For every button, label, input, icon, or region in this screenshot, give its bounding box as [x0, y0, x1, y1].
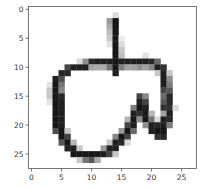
pixel-cell [125, 140, 131, 146]
pixel-cell [119, 128, 125, 134]
pixel-cell [59, 93, 65, 99]
pixel-cell [59, 116, 65, 122]
pixel-cell [125, 64, 131, 70]
pixel-cell [53, 76, 59, 82]
pixel-cell [59, 111, 65, 117]
pixel-cell [113, 145, 119, 151]
pixel-cell [143, 111, 149, 117]
pixel-cell [167, 76, 173, 82]
pixel-cell [119, 47, 125, 53]
pixel-grid [47, 12, 179, 163]
pixel-cell [101, 59, 107, 65]
pixel-cell [71, 151, 77, 157]
pixel-cell [137, 59, 143, 65]
x-tick-label: 20 [147, 173, 157, 182]
pixel-cell [113, 151, 119, 157]
pixel-cell [89, 157, 95, 163]
pixel-cell [155, 134, 161, 140]
x-tick-label: 15 [117, 173, 127, 182]
pixel-cell [143, 105, 149, 111]
pixel-cell [149, 116, 155, 122]
pixel-cell [113, 18, 119, 24]
pixel-cell [137, 116, 143, 122]
pixel-cell [143, 93, 149, 99]
pixel-cell [119, 59, 125, 65]
pixel-cell [113, 134, 119, 140]
pixel-cell [161, 88, 167, 94]
pixel-cell [107, 18, 113, 24]
pixel-cell [47, 82, 53, 88]
pixel-cell [89, 151, 95, 157]
pixel-cell [107, 35, 113, 41]
pixel-cell [53, 128, 59, 134]
pixel-cell [113, 12, 119, 18]
pixel-cell [161, 105, 167, 111]
pixel-cell [131, 64, 137, 70]
pixel-cell [77, 145, 83, 151]
pixel-cell [53, 88, 59, 94]
pixel-cell [65, 145, 71, 151]
pixel-cell [59, 76, 65, 82]
y-tick-label: 10 [14, 63, 24, 72]
pixel-cell [149, 59, 155, 65]
pixel-cell [77, 64, 83, 70]
x-tick-label: 5 [59, 173, 64, 182]
pixel-cell [113, 24, 119, 30]
pixel-cell [119, 35, 125, 41]
pixel-cell [107, 151, 113, 157]
pixel-cell [65, 140, 71, 146]
pixel-cell [47, 99, 53, 105]
pixel-cell [59, 88, 65, 94]
pixel-cell [155, 59, 161, 65]
pixel-cell [65, 128, 71, 134]
pixel-cell [167, 70, 173, 76]
pixel-cell [59, 140, 65, 146]
pixel-cell [137, 105, 143, 111]
pixel-cell [143, 116, 149, 122]
pixel-cell [137, 93, 143, 99]
pixel-cell [161, 99, 167, 105]
pixel-cell [77, 59, 83, 65]
pixel-cell [137, 64, 143, 70]
y-tick-label: 0 [19, 5, 24, 14]
pixel-cell [131, 122, 137, 128]
pixel-cell [59, 99, 65, 105]
pixel-cell [113, 41, 119, 47]
x-axis: 0510152025 [29, 169, 186, 182]
pixel-cell [101, 64, 107, 70]
pixel-cell [107, 59, 113, 65]
pixel-cell [107, 41, 113, 47]
pixel-cell [71, 145, 77, 151]
pixel-cell [131, 116, 137, 122]
pixel-cell [113, 140, 119, 146]
pixel-cell [95, 64, 101, 70]
pixel-cell [161, 64, 167, 70]
pixel-cell [71, 64, 77, 70]
x-tick-label: 10 [87, 173, 97, 182]
pixel-cell [113, 35, 119, 41]
pixel-cell [149, 128, 155, 134]
pixel-cell [107, 64, 113, 70]
pixel-cell [119, 134, 125, 140]
pixel-cell [59, 82, 65, 88]
pixel-cell [143, 122, 149, 128]
pixel-cell [89, 59, 95, 65]
pixel-cell [65, 64, 71, 70]
pixel-cell [161, 70, 167, 76]
pixel-cell [53, 99, 59, 105]
pixel-cell [113, 59, 119, 65]
pixel-cell [95, 151, 101, 157]
pixel-cell [155, 116, 161, 122]
pixel-cell [53, 93, 59, 99]
pixel-cell [89, 64, 95, 70]
pixel-cell [83, 151, 89, 157]
pixel-cell [155, 70, 161, 76]
pixel-cell [173, 105, 179, 111]
pixel-cell [161, 82, 167, 88]
pixel-cell [143, 99, 149, 105]
pixel-cell [53, 122, 59, 128]
pixel-cell [167, 116, 173, 122]
pixel-cell [155, 122, 161, 128]
pixel-cell [161, 93, 167, 99]
pixel-cell [65, 134, 71, 140]
